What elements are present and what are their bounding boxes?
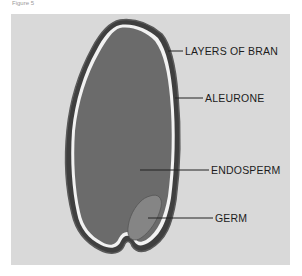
label-bran: LAYERS OF BRAN — [185, 45, 278, 57]
label-aleurone: ALEURONE — [205, 92, 264, 104]
label-endosperm: ENDOSPERM — [211, 164, 280, 176]
kernel-diagram — [0, 0, 302, 276]
label-germ: GERM — [215, 212, 247, 224]
